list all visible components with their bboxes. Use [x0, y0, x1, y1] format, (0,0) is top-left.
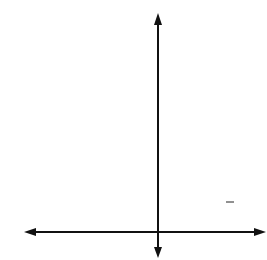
x-axis-left-arrow-icon — [24, 228, 36, 236]
x-axis-right-arrow-icon — [254, 228, 266, 236]
y-axis-up-arrow-icon — [154, 13, 162, 25]
y-axis-down-arrow-icon — [154, 247, 162, 258]
x-axis — [24, 228, 266, 236]
graph — [0, 0, 267, 260]
y-axis — [154, 13, 162, 258]
